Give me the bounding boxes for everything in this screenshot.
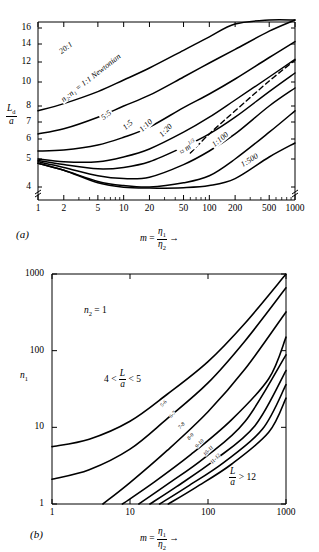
panel-a-plot-area [38, 22, 295, 200]
panel-b-annotation-n2: n2 = 1 [84, 305, 107, 317]
panel-a-x-tick: 1000 [286, 204, 305, 214]
panel-a-x-tick: 5 [96, 204, 101, 214]
panel-b-x-tick: 100 [201, 508, 215, 518]
curve-1-5 [38, 59, 295, 162]
panel-a-y-tick: 10 [0, 77, 31, 87]
panel-a-x-tick: 50 [179, 204, 189, 214]
panel-b: 10001001011101001000 5-66-77-88-99-1010-… [0, 266, 319, 552]
panel-a-x-tick: 500 [262, 204, 276, 214]
panel-a-y-tick: 6 [0, 134, 31, 144]
panel-b-annotation-region-high: L a > 12 [229, 467, 256, 488]
panel-b-x-tick: 1000 [277, 508, 296, 518]
panel-b-x-tick: 1 [50, 508, 55, 518]
panel-a-x-tick: 100 [202, 204, 216, 214]
panel-a-x-tick: 200 [228, 204, 242, 214]
panel-b-x-tick: 10 [125, 508, 135, 518]
panel-b-y-tick: 10 [0, 423, 44, 433]
panel-a-label: (a) [16, 228, 29, 240]
panel-a-x-axis-title: m = η1 η2 → [140, 227, 179, 251]
panel-b-y-tick: 1000 [0, 269, 44, 279]
panel-b-y-axis-title: n1 [20, 370, 28, 382]
panel-a-y-axis-title: Ld a [6, 104, 17, 127]
panel-a-x-tick: 1 [36, 204, 41, 214]
curve-8-9 [122, 337, 286, 504]
panel-a-y-tick: 14 [0, 39, 31, 49]
panel-a-x-tick: 20 [145, 204, 155, 214]
panel-a: 16141210876541251020501002005001000 20:1… [0, 0, 319, 268]
panel-b-x-axis-title: m = η1 η2 → [140, 527, 179, 551]
panel-a-y-tick: 5 [0, 154, 31, 164]
panel-a-x-tick: 2 [61, 204, 66, 214]
curve-1-500 [38, 143, 295, 188]
panel-a-x-tick: 10 [119, 204, 129, 214]
panel-b-annotation-region-low: 4 < L a < 5 [104, 369, 141, 390]
panel-b-y-tick: 1 [0, 499, 44, 509]
panel-b-y-tick: 100 [0, 346, 44, 356]
panel-a-curves [38, 22, 295, 200]
panel-a-y-tick: 12 [0, 57, 31, 67]
panel-a-y-tick: 16 [0, 23, 31, 33]
panel-a-y-tick: 4 [0, 182, 31, 192]
figure-container: 16141210876541251020501002005001000 20:1… [0, 0, 319, 552]
panel-b-label: (b) [30, 528, 43, 540]
